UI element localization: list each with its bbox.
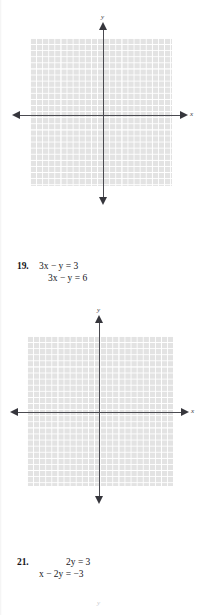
y-axis-line [99, 320, 100, 500]
problem-19-equation-2: 3x − y = 6 [39, 273, 87, 285]
y-axis-label: y [97, 600, 100, 607]
problem-21-equation-1: 2y = 3 [39, 557, 90, 569]
x-axis-line [18, 115, 185, 116]
y-axis-down-arrowhead [95, 496, 103, 504]
graph-middle: y x [0, 300, 206, 515]
problem-19-equation-1: 3x − y = 3 [39, 261, 87, 273]
x-axis-line [16, 412, 186, 413]
graph-bottom-partial: y [0, 596, 206, 615]
y-axis-up-arrowhead [95, 315, 103, 323]
coordinate-grid [30, 38, 172, 186]
problem-19-equations: 3x − y = 3 3x − y = 6 [39, 261, 87, 284]
y-axis-label: y [97, 307, 100, 314]
x-axis-right-arrowhead [181, 408, 189, 416]
y-axis-label: y [101, 14, 104, 21]
workbook-page: y x 19. 3x − y = 3 3x − y = 6 y x 21. 2y… [0, 0, 206, 615]
y-axis-up-arrowhead [99, 22, 107, 30]
y-axis-down-arrowhead [99, 197, 107, 205]
problem-21-number: 21. [17, 557, 29, 569]
x-axis-label: x [191, 408, 194, 415]
y-axis-line [103, 27, 104, 201]
x-axis-label: x [190, 111, 193, 118]
problem-21-equations: 2y = 3 x − 2y = −3 [39, 557, 90, 580]
x-axis-left-arrowhead [10, 408, 18, 416]
problem-21-equation-2: x − 2y = −3 [39, 569, 90, 581]
x-axis-left-arrowhead [12, 111, 20, 119]
x-axis-right-arrowhead [180, 111, 188, 119]
graph-top: y x [0, 0, 206, 210]
problem-19-number: 19. [17, 261, 29, 273]
